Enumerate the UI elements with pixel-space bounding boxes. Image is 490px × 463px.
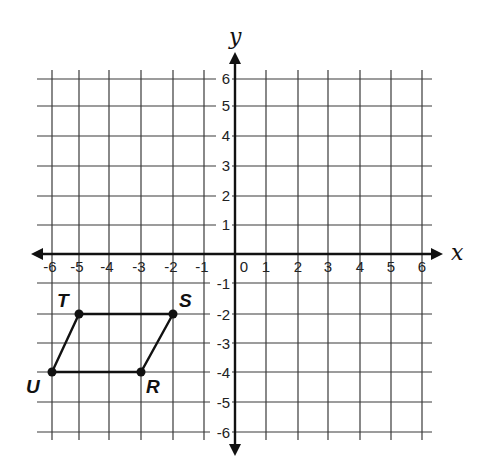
y-tick-label: -5 [217, 394, 230, 411]
x-tick-label: -2 [164, 258, 177, 275]
x-tick-label: 6 [418, 258, 426, 275]
point-label-t: T [57, 290, 70, 311]
y-tick-label: -1 [217, 275, 230, 292]
vertex-t [75, 310, 84, 319]
x-axis-left-arrow-icon [31, 248, 43, 260]
x-axis-label: x [451, 240, 464, 265]
y-tick-label: 5 [222, 97, 230, 114]
y-axis-up-arrow-icon [229, 52, 241, 64]
x-tick-label: -5 [70, 258, 83, 275]
point-label-r: R [146, 376, 160, 397]
y-tick-label: 3 [222, 157, 230, 174]
x-tick-label: -6 [43, 258, 56, 275]
x-axis [31, 248, 443, 260]
y-tick-label: -2 [217, 306, 230, 323]
x-axis-right-arrow-icon [431, 248, 443, 260]
origin-label: 0 [240, 258, 248, 275]
vertex-u [48, 368, 57, 377]
x-tick-label: 5 [387, 258, 395, 275]
y-axis-label: y [228, 24, 242, 49]
coordinate-plane: y x -6 -5 -4 -3 -2 -1 0 1 2 3 4 5 6 6 5 … [0, 0, 490, 463]
x-tick-label: -3 [132, 258, 145, 275]
x-tick-label: -1 [195, 258, 208, 275]
x-tick-label: 3 [324, 258, 332, 275]
point-label-s: S [179, 290, 192, 311]
tick-label-backgrounds [210, 70, 232, 441]
y-tick-label: 2 [222, 187, 230, 204]
y-tick-label: 4 [222, 127, 230, 144]
vertex-r [137, 368, 146, 377]
x-tick-label: 1 [262, 258, 270, 275]
y-tick-label: -4 [217, 364, 230, 381]
y-tick-labels: 6 5 4 3 2 1 -1 -2 -3 -4 -5 -6 [217, 70, 230, 441]
y-tick-label: 1 [222, 216, 230, 233]
point-label-u: U [26, 376, 41, 397]
x-tick-label: 4 [356, 258, 364, 275]
y-tick-label: 6 [222, 70, 230, 87]
y-tick-label: -3 [217, 335, 230, 352]
y-tick-label: -6 [217, 424, 230, 441]
vertex-s [169, 310, 178, 319]
x-tick-label: 2 [294, 258, 302, 275]
x-tick-label: -4 [100, 258, 113, 275]
y-axis-down-arrow-icon [229, 444, 241, 456]
